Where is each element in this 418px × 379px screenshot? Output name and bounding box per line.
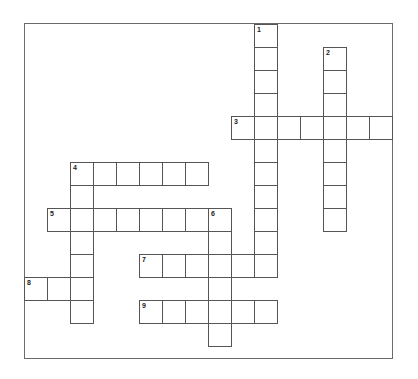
crossword-cell[interactable] — [139, 162, 163, 186]
crossword-cell[interactable] — [231, 300, 255, 324]
clue-number: 9 — [142, 302, 146, 309]
crossword-cell[interactable] — [254, 254, 278, 278]
crossword-cell[interactable] — [254, 93, 278, 117]
crossword-cell[interactable] — [116, 162, 140, 186]
crossword-cell[interactable] — [70, 300, 94, 324]
crossword-cell[interactable] — [116, 208, 140, 232]
crossword-cell[interactable] — [323, 162, 347, 186]
crossword-cell[interactable] — [139, 208, 163, 232]
crossword-cell[interactable]: 5 — [47, 208, 71, 232]
crossword-cell[interactable] — [93, 162, 117, 186]
clue-number: 4 — [73, 164, 77, 171]
crossword-cell[interactable] — [323, 139, 347, 163]
crossword-cell[interactable] — [254, 116, 278, 140]
crossword-cell[interactable] — [47, 277, 71, 301]
crossword-cell[interactable]: 9 — [139, 300, 163, 324]
crossword-cell[interactable]: 8 — [24, 277, 48, 301]
crossword-cell[interactable]: 4 — [70, 162, 94, 186]
crossword-cell[interactable] — [300, 116, 324, 140]
clue-number: 6 — [211, 210, 215, 217]
crossword-cell[interactable] — [254, 300, 278, 324]
crossword-cell[interactable] — [162, 208, 186, 232]
crossword-cell[interactable] — [254, 231, 278, 255]
crossword-cell[interactable] — [70, 208, 94, 232]
crossword-cell[interactable]: 3 — [231, 116, 255, 140]
clue-number: 5 — [50, 210, 54, 217]
crossword-cell[interactable] — [323, 185, 347, 209]
crossword-cell[interactable] — [254, 70, 278, 94]
crossword-cell[interactable] — [208, 277, 232, 301]
crossword-cell[interactable] — [323, 208, 347, 232]
crossword-cell[interactable] — [70, 231, 94, 255]
crossword-cell[interactable] — [323, 116, 347, 140]
clue-number: 8 — [27, 279, 31, 286]
crossword-cell[interactable] — [254, 208, 278, 232]
crossword-cell[interactable] — [162, 254, 186, 278]
crossword-cell[interactable] — [369, 116, 393, 140]
crossword-cell[interactable]: 6 — [208, 208, 232, 232]
crossword-cell[interactable] — [323, 93, 347, 117]
crossword-cell[interactable]: 1 — [254, 24, 278, 48]
crossword-cell[interactable] — [254, 47, 278, 71]
clue-number: 7 — [142, 256, 146, 263]
crossword-cell[interactable] — [208, 254, 232, 278]
crossword-cell[interactable] — [70, 185, 94, 209]
crossword-cell[interactable] — [254, 162, 278, 186]
crossword-cell[interactable] — [231, 254, 255, 278]
clue-number: 1 — [257, 26, 261, 33]
clue-number: 3 — [234, 118, 238, 125]
crossword-cell[interactable] — [185, 208, 209, 232]
clue-number: 2 — [326, 49, 330, 56]
crossword-cell[interactable] — [185, 300, 209, 324]
crossword-cell[interactable] — [93, 208, 117, 232]
crossword-cell[interactable] — [254, 139, 278, 163]
crossword-cell[interactable] — [162, 162, 186, 186]
crossword-cell[interactable] — [208, 300, 232, 324]
crossword-cell[interactable] — [70, 254, 94, 278]
crossword-cell[interactable] — [70, 277, 94, 301]
crossword-cell[interactable] — [254, 185, 278, 209]
crossword-cell[interactable]: 2 — [323, 47, 347, 71]
crossword-cell[interactable]: 7 — [139, 254, 163, 278]
crossword-cell[interactable] — [185, 162, 209, 186]
crossword-cell[interactable] — [346, 116, 370, 140]
crossword-cell[interactable] — [323, 70, 347, 94]
crossword-cell[interactable] — [208, 323, 232, 347]
crossword-cell[interactable] — [208, 231, 232, 255]
crossword-cell[interactable] — [277, 116, 301, 140]
crossword-cell[interactable] — [162, 300, 186, 324]
crossword-cell[interactable] — [185, 254, 209, 278]
